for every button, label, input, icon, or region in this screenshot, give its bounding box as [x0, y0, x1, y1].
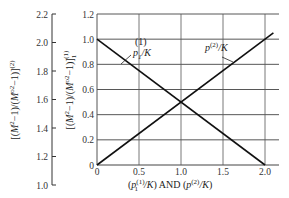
x-tick-label: 1.0	[175, 167, 187, 177]
y-tick-label: 0.4	[82, 110, 94, 120]
aux-y-tick-label: 2.2	[36, 10, 48, 20]
aux-y-axis: 1.01.21.41.61.82.02.2	[36, 10, 56, 191]
y-tick-label: 0.8	[82, 60, 94, 70]
y-tick-label: 1.0	[82, 35, 94, 45]
svg-text:(1): (1)	[135, 36, 147, 48]
series-label-p2: p(2)/K	[204, 41, 233, 62]
series-line-2	[97, 33, 273, 165]
aux-y-tick-label: 2.0	[36, 38, 48, 48]
svg-text:p(2)/K: p(2)/K	[204, 41, 229, 53]
aux-y-tick-label: 1.4	[36, 124, 48, 134]
svg-text:[(M2−1)/(Mo2−1)]1(1): [(M2−1)/(Mo2−1)]1(1)	[62, 50, 78, 130]
y-tick-label: 1.2	[82, 10, 94, 20]
aux-y-tick-label: 1.0	[36, 181, 48, 191]
aux-y-axis-title: [(M2−1)/(Mo2−1)](2)	[8, 60, 21, 140]
y-tick-label: 0.2	[82, 135, 94, 145]
chart: 1.01.21.41.61.82.02.2 [(M2−1)/(Mo2−1)](2…	[0, 0, 289, 198]
x-tick-label: 2.0	[259, 167, 271, 177]
svg-text:(p(1)1/K) AND (p(2)/K): (p(1)1/K) AND (p(2)/K)	[128, 178, 212, 193]
svg-text:p1/K: p1/K	[132, 47, 152, 61]
aux-y-tick-label: 1.2	[36, 152, 48, 162]
x-tick-label: 0.5	[133, 167, 145, 177]
aux-y-tick-label: 1.8	[36, 67, 48, 77]
x-tick-label: 0	[95, 167, 100, 177]
series-label-p1: p1/K (1)	[121, 36, 152, 64]
y-tick-label: 0.6	[82, 85, 94, 95]
y-tick-label: 0	[89, 161, 94, 171]
svg-text:[(M2−1)/(Mo2−1)](2): [(M2−1)/(Mo2−1)](2)	[8, 60, 21, 140]
grid-lines	[97, 14, 279, 165]
x-axis-title: (p(1)1/K) AND (p(2)/K)	[128, 178, 212, 193]
plot-area: 00.20.40.60.81.01.200.51.01.52.0	[82, 10, 279, 178]
aux-y-tick-label: 1.6	[36, 95, 48, 105]
x-tick-label: 1.5	[217, 167, 229, 177]
main-y-axis-title: [(M2−1)/(Mo2−1)]1(1)	[62, 50, 78, 130]
